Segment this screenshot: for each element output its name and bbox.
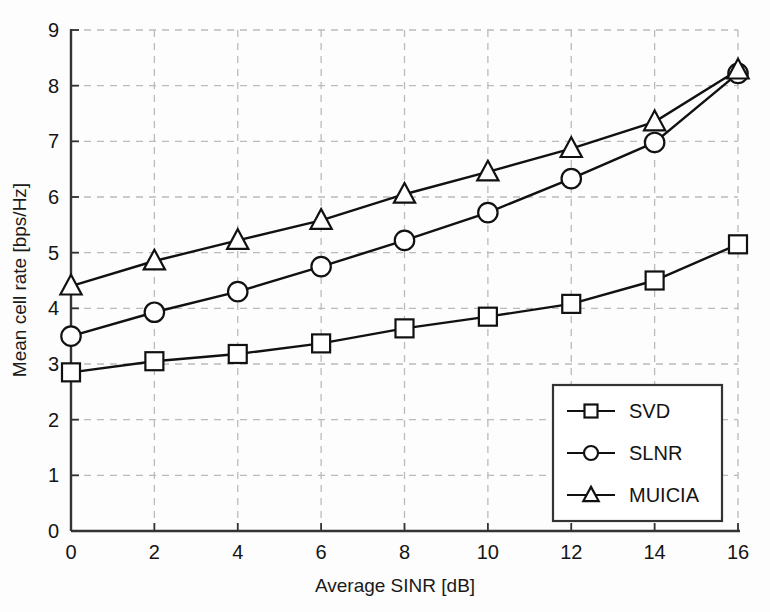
y-tick-label: 7 (48, 130, 59, 152)
x-axis-label: Average SINR [dB] (315, 575, 475, 596)
y-tick-label: 5 (48, 242, 59, 264)
line-chart: 02468101214160123456789 SVDSLNRMUICIA Av… (0, 0, 770, 612)
x-tick-label: 16 (727, 541, 749, 563)
legend-label: SVD (629, 400, 670, 422)
data-point-circle (395, 231, 414, 250)
data-point-triangle (644, 111, 665, 131)
legend-label: SLNR (629, 442, 682, 464)
data-point-square (145, 352, 163, 370)
x-tick-label: 12 (560, 541, 582, 563)
data-point-circle (145, 303, 164, 322)
legend-marker-circle (584, 446, 598, 460)
y-tick-label: 6 (48, 186, 59, 208)
data-point-square (62, 363, 80, 381)
y-axis-label: Mean cell rate [bps/Hz] (9, 183, 30, 377)
data-point-square (729, 235, 747, 253)
data-point-square (479, 308, 497, 326)
legend-label: MUICIA (629, 484, 700, 506)
x-tick-label: 2 (149, 541, 160, 563)
data-point-circle (228, 282, 247, 301)
data-point-square (646, 272, 664, 290)
data-point-circle (311, 257, 330, 276)
data-point-circle (61, 326, 80, 345)
y-tick-label: 3 (48, 353, 59, 375)
chart-figure: 02468101214160123456789 SVDSLNRMUICIA Av… (0, 0, 770, 612)
x-tick-label: 8 (399, 541, 410, 563)
data-series (60, 59, 748, 382)
y-tick-label: 4 (48, 297, 59, 319)
data-point-circle (478, 203, 497, 222)
x-tick-label: 10 (477, 541, 499, 563)
x-tick-label: 6 (316, 541, 327, 563)
y-tick-label: 8 (48, 75, 59, 97)
data-point-circle (645, 133, 664, 152)
x-tick-label: 14 (644, 541, 666, 563)
data-point-square (562, 295, 580, 313)
y-tick-label: 9 (48, 19, 59, 41)
y-tick-label: 1 (48, 464, 59, 486)
x-tick-label: 0 (65, 541, 76, 563)
y-tick-label: 0 (48, 520, 59, 542)
legend-marker-square (585, 405, 598, 418)
data-point-square (229, 345, 247, 363)
data-point-square (312, 334, 330, 352)
x-tick-label: 4 (232, 541, 243, 563)
legend: SVDSLNRMUICIA (553, 385, 722, 521)
y-tick-label: 2 (48, 409, 59, 431)
data-point-circle (562, 169, 581, 188)
data-point-square (396, 319, 414, 337)
